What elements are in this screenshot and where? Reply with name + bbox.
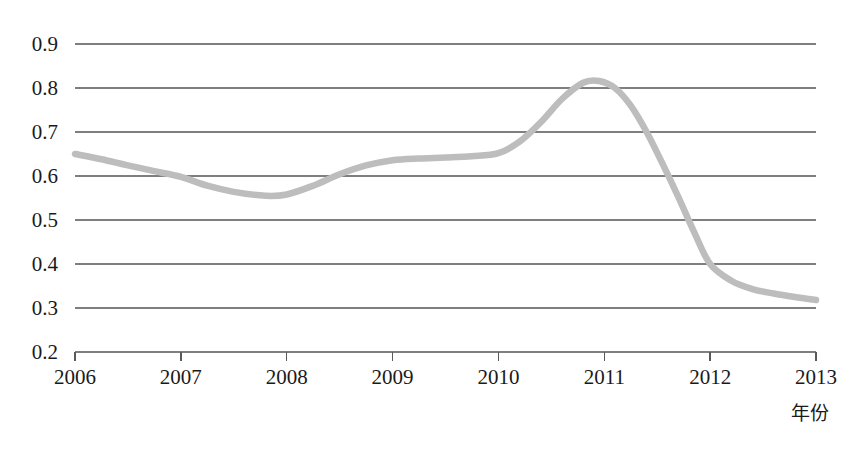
x-tick-label-2013: 2013 bbox=[795, 365, 837, 389]
x-tick-label-2007: 2007 bbox=[160, 365, 202, 389]
y-tick-label-0.4: 0.4 bbox=[32, 252, 59, 276]
y-tick-label-0.7: 0.7 bbox=[32, 120, 58, 144]
x-axis-title: 年份 bbox=[791, 403, 829, 424]
y-tick-label-0.2: 0.2 bbox=[32, 340, 58, 364]
x-tick-label-2010: 2010 bbox=[477, 365, 519, 389]
y-tick-label-0.8: 0.8 bbox=[32, 76, 58, 100]
y-tick-label-0.6: 0.6 bbox=[32, 164, 58, 188]
data-line-series-1 bbox=[75, 80, 816, 300]
x-tick-label-2008: 2008 bbox=[266, 365, 308, 389]
x-tick-label-2009: 2009 bbox=[372, 365, 414, 389]
line-chart: 0.20.30.40.50.60.70.80.9 200620072008200… bbox=[0, 0, 855, 458]
x-tick-label-2012: 2012 bbox=[689, 365, 731, 389]
y-tick-label-0.5: 0.5 bbox=[32, 208, 58, 232]
y-tick-labels-group: 0.20.30.40.50.60.70.80.9 bbox=[32, 32, 59, 364]
y-tick-label-0.9: 0.9 bbox=[32, 32, 58, 56]
y-tick-label-0.3: 0.3 bbox=[32, 296, 58, 320]
x-tick-label-2006: 2006 bbox=[54, 365, 96, 389]
chart-container: 0.20.30.40.50.60.70.80.9 200620072008200… bbox=[0, 0, 855, 458]
x-axis-group bbox=[75, 352, 816, 361]
x-axis-title-group: 年份 bbox=[791, 403, 829, 424]
x-tick-label-2011: 2011 bbox=[584, 365, 625, 389]
data-line-group bbox=[75, 80, 816, 300]
x-tick-labels-group: 20062007200820092010201120122013 bbox=[54, 365, 837, 389]
